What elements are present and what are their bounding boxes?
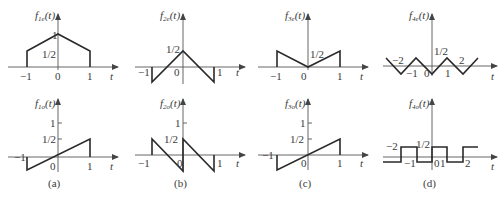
x-tick-label: 0 xyxy=(50,160,56,172)
x-tick-label: 1 xyxy=(440,157,446,169)
y-tick-label: 1/2 xyxy=(42,48,56,60)
panel-b: f2e(t) 1/2 −1 0 1 t f2o(t) 1 1/2 −1 0 1 … xyxy=(135,9,245,190)
plot-title: f4e(t) xyxy=(409,9,429,23)
x-axis-label: t xyxy=(110,160,114,172)
x-tick-label: 1 xyxy=(445,67,451,79)
x-tick-label: 2 xyxy=(459,54,465,66)
signal-f1o xyxy=(27,139,90,170)
x-axis-label: t xyxy=(491,70,495,82)
plot-f1e: f1e(t) 1 1/2 −1 0 1 t xyxy=(8,9,118,82)
plot-title: f1e(t) xyxy=(35,9,55,23)
panel-d: f4e(t) 1/2 −2 −1 0 1 2 t f4o(t) 1/2 −2 −… xyxy=(383,9,497,190)
x-tick-label: 1 xyxy=(337,157,343,169)
y-tick-label: 1 xyxy=(52,29,58,41)
panel-caption: (d) xyxy=(423,177,436,190)
x-tick-label: 1 xyxy=(217,157,223,169)
panel-a: f1e(t) 1 1/2 −1 0 1 t f1o(t) 1 1/2 −1 0 … xyxy=(8,9,118,190)
x-axis-label: t xyxy=(236,157,240,169)
x-tick-label: 0 xyxy=(424,67,430,79)
plot-title: f2o(t) xyxy=(160,97,181,111)
x-tick-label: 2 xyxy=(465,157,471,169)
signal-f3o xyxy=(277,139,340,170)
plot-title: f2e(t) xyxy=(160,9,180,23)
x-tick-label: −1 xyxy=(138,66,150,78)
y-tick-label: 1 xyxy=(300,117,306,129)
signal-f1e xyxy=(27,34,90,67)
y-tick-label: 1 xyxy=(175,117,181,129)
y-tick-label: 1/2 xyxy=(416,138,430,150)
x-tick-label: −1 xyxy=(270,70,282,82)
x-tick-label: 1 xyxy=(337,70,343,82)
plot-f4e: f4e(t) 1/2 −2 −1 0 1 2 t xyxy=(383,9,497,82)
plot-f4o: f4o(t) 1/2 −2 −1 0 1 2 t xyxy=(383,97,497,172)
panel-caption: (b) xyxy=(174,177,187,190)
x-tick-label: −1 xyxy=(14,151,26,163)
plot-f3o: f3o(t) 1 1/2 −1 0 1 t xyxy=(258,97,368,170)
panel-caption: (a) xyxy=(48,177,61,190)
x-axis-label: t xyxy=(491,160,495,172)
panel-caption: (c) xyxy=(299,177,312,190)
plot-f1o: f1o(t) 1 1/2 −1 0 1 t xyxy=(8,97,118,172)
y-tick-label: 1/2 xyxy=(164,133,178,145)
y-tick-label: 1/2 xyxy=(166,43,180,55)
plot-f2o: f2o(t) 1 1/2 −1 0 1 t xyxy=(135,97,245,172)
x-tick-label: 1 xyxy=(87,70,93,82)
x-tick-label: −1 xyxy=(406,67,418,79)
x-tick-label: −1 xyxy=(262,149,274,161)
x-tick-label: −1 xyxy=(404,157,416,169)
plot-title: f4o(t) xyxy=(409,97,430,111)
x-axis-label: t xyxy=(360,70,364,82)
x-tick-label: −2 xyxy=(392,54,404,66)
x-tick-label: −2 xyxy=(386,140,398,152)
x-axis-label: t xyxy=(110,70,114,82)
plot-title: f3e(t) xyxy=(285,9,305,23)
x-tick-label: −1 xyxy=(20,70,32,82)
x-tick-label: 0 xyxy=(174,66,180,78)
y-tick-label: 1/2 xyxy=(434,45,448,57)
x-tick-label: 0 xyxy=(55,70,61,82)
figure-canvas: f1e(t) 1 1/2 −1 0 1 t f1o(t) 1 1/2 −1 0 … xyxy=(0,0,499,199)
x-tick-label: 1 xyxy=(217,66,223,78)
x-tick-label: −1 xyxy=(138,157,150,169)
plot-f3e: f3e(t) 1/2 −1 0 1 t xyxy=(258,9,368,82)
x-axis-label: t xyxy=(360,157,364,169)
plot-f2e: f2e(t) 1/2 −1 0 1 t xyxy=(135,9,245,84)
x-tick-label: 0 xyxy=(301,157,307,169)
y-tick-label: 1/2 xyxy=(290,133,304,145)
y-tick-label: 1/2 xyxy=(42,133,56,145)
signal-f3e xyxy=(277,51,340,67)
x-axis-label: t xyxy=(236,66,240,78)
plot-title: f1o(t) xyxy=(35,97,56,111)
x-tick-label: 0 xyxy=(301,70,307,82)
plot-title: f3o(t) xyxy=(285,97,306,111)
x-tick-label: 0 xyxy=(177,157,183,169)
y-tick-label: 1/2 xyxy=(310,48,324,60)
panel-c: f3e(t) 1/2 −1 0 1 t f3o(t) 1 1/2 −1 0 1 … xyxy=(258,9,368,190)
x-tick-label: 1 xyxy=(87,160,93,172)
y-tick-label: 1 xyxy=(50,117,56,129)
